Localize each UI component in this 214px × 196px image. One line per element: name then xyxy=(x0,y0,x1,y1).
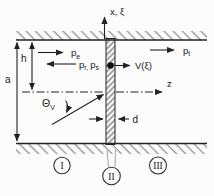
dim-a-label: a xyxy=(5,74,11,85)
diagram-canvas: x, ξ z a h pe pr, ps V(ξ) pt ΘV d I II I… xyxy=(0,0,214,196)
region-2-label: II xyxy=(108,172,114,182)
bottom-wall-hatching xyxy=(16,144,207,154)
x-axis-label: x, ξ xyxy=(110,6,125,17)
dim-h-label: h xyxy=(21,53,27,64)
region-3-label: III xyxy=(153,161,163,171)
bottom-wall xyxy=(16,144,207,155)
region-2-leader-right xyxy=(115,150,116,167)
plate xyxy=(106,39,115,145)
velocity-label: V(ξ) xyxy=(135,60,152,71)
orifice-dot xyxy=(107,62,114,69)
duct-plate-diagram: x, ξ z a h pe pr, ps V(ξ) pt ΘV d I II I… xyxy=(0,0,214,196)
dim-d-label: d xyxy=(133,114,139,125)
z-axis-label: z xyxy=(167,78,172,89)
region-1-label: I xyxy=(60,161,63,171)
